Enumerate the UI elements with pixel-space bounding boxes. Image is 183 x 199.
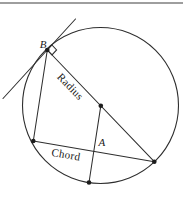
lower-left-point-dot bbox=[31, 139, 36, 144]
point-a-label: A bbox=[98, 136, 106, 148]
diagram-canvas: B Radius Chord A bbox=[0, 0, 183, 199]
lower-right-point-dot bbox=[152, 159, 157, 164]
circle-geometry-diagram: B Radius Chord A bbox=[0, 0, 183, 199]
center-dot bbox=[99, 104, 104, 109]
point-b-label: B bbox=[40, 38, 47, 50]
bottom-point-dot bbox=[87, 180, 92, 185]
